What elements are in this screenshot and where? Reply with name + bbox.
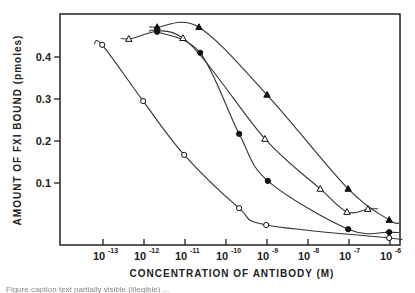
open-triangle-marker <box>344 209 350 215</box>
x-tick-exponent: -8 <box>313 247 319 254</box>
figure-caption: Figure caption text partially visible (i… <box>6 285 411 293</box>
x-tick-exponent: -12 <box>149 247 159 254</box>
x-axis-label: CONCENTRATION OF ANTIBODY (M) <box>130 268 335 279</box>
y-tick-label: 0.3 <box>36 93 51 105</box>
x-tick-exponent: -10 <box>231 247 241 254</box>
filled-circle-marker <box>346 227 351 232</box>
open-circle-marker <box>264 222 269 227</box>
open-triangle-marker <box>180 35 186 41</box>
open-circle-marker <box>387 235 392 240</box>
open-circle-marker <box>237 206 242 211</box>
x-tick-label: 10 <box>380 250 392 262</box>
filled-triangle-marker <box>386 217 392 223</box>
x-tick-exponent: -9 <box>272 247 278 254</box>
open-circle-marker <box>141 99 146 104</box>
x-tick-label: 10 <box>339 250 351 262</box>
x-tick-exponent: -7 <box>354 247 360 254</box>
x-tick-exponent: -6 <box>395 247 401 254</box>
filled-circle-marker <box>237 131 242 136</box>
chart-svg: 0.10.20.30.4 10-1310-1210-1110-1010-910-… <box>0 0 415 293</box>
x-tick-label: 10 <box>93 250 105 262</box>
y-axis-label: AMOUNT OF FXI BOUND (pmoles) <box>12 35 23 226</box>
x-tick-label: 10 <box>175 250 187 262</box>
x-tick-exponent: -11 <box>190 247 200 254</box>
filled-circle-marker <box>155 29 160 34</box>
filled-triangle-marker <box>196 24 202 30</box>
filled-circle-marker <box>265 178 270 183</box>
y-axis-ticks: 0.10.20.30.4 <box>36 51 60 189</box>
data-markers <box>100 24 393 241</box>
x-tick-label: 10 <box>257 250 269 262</box>
filled-circle-marker <box>387 230 392 235</box>
y-tick-label: 0.2 <box>36 135 51 147</box>
x-axis-ticks: 10-1310-1210-1110-1010-910-810-710-6 <box>93 239 401 262</box>
y-tick-label: 0.1 <box>36 177 51 189</box>
y-tick-label: 0.4 <box>36 51 52 63</box>
filled-circle-marker <box>198 50 203 55</box>
open-circle-marker <box>100 42 105 47</box>
x-tick-label: 10 <box>298 250 310 262</box>
series-curve <box>94 40 402 239</box>
open-circle-marker <box>182 152 187 157</box>
x-tick-label: 10 <box>134 250 146 262</box>
plot-frame <box>60 14 400 245</box>
x-tick-exponent: -13 <box>108 247 118 254</box>
series-curve <box>149 30 399 234</box>
series-curve <box>121 31 378 213</box>
series-curve <box>149 22 399 223</box>
x-tick-label: 10 <box>216 250 228 262</box>
data-curves <box>94 22 402 239</box>
